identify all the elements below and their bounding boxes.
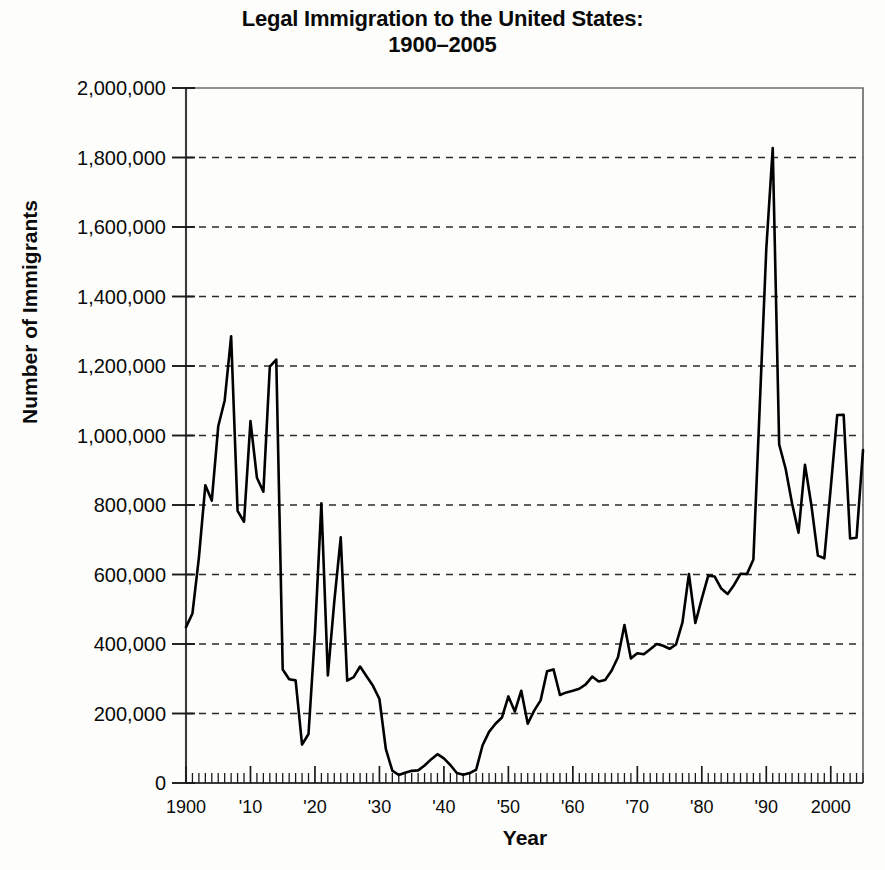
x-tick-label: '40: [432, 797, 455, 817]
y-tick-label: 1,200,000: [77, 355, 166, 377]
x-tick-label: '90: [755, 797, 778, 817]
y-tick-label: 0: [155, 772, 166, 794]
y-tick-label: 200,000: [94, 703, 166, 725]
gridlines-group: [186, 158, 863, 784]
y-axis-tick-labels: 0200,000400,000600,000800,0001,000,0001,…: [77, 77, 166, 794]
x-tick-label: '60: [561, 797, 584, 817]
data-series-line: [186, 148, 863, 775]
y-tick-label: 1,000,000: [77, 425, 166, 447]
y-tick-label: 1,800,000: [77, 147, 166, 169]
x-tick-label: '50: [497, 797, 520, 817]
y-tick-label: 1,600,000: [77, 216, 166, 238]
x-tick-label: '70: [626, 797, 649, 817]
y-axis-ticks: [172, 88, 195, 783]
x-axis-ticks: [186, 766, 863, 783]
y-tick-label: 2,000,000: [77, 77, 166, 99]
x-tick-label: 2000: [811, 797, 851, 817]
line-chart-plot: 0200,000400,000600,000800,0001,000,0001,…: [0, 0, 885, 870]
x-tick-label: '10: [239, 797, 262, 817]
y-tick-label: 600,000: [94, 564, 166, 586]
x-tick-label: 1900: [166, 797, 206, 817]
chart-figure: Legal Immigration to the United States: …: [0, 0, 885, 870]
y-tick-label: 800,000: [94, 494, 166, 516]
y-tick-label: 1,400,000: [77, 286, 166, 308]
x-tick-label: '80: [690, 797, 713, 817]
x-tick-label: '20: [303, 797, 326, 817]
series-line-legal-immigrants: [186, 148, 863, 775]
x-axis-tick-labels: 1900'10'20'30'40'50'60'70'80'902000: [166, 797, 851, 817]
y-tick-label: 400,000: [94, 633, 166, 655]
x-tick-label: '30: [368, 797, 391, 817]
